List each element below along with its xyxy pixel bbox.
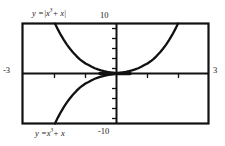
curve-cubic-tail: + x bbox=[53, 128, 65, 138]
curve-abs-tail: + x bbox=[52, 8, 64, 18]
plot-canvas bbox=[0, 0, 225, 146]
graph-figure: 10 -10 -3 3 y =|x3+ x| y =x3+ x bbox=[0, 0, 225, 146]
curve-label-cubic: y =x3+ x bbox=[35, 128, 65, 137]
curve-abs-bar-close: | bbox=[64, 9, 66, 18]
curve-cubic-lhs: y = bbox=[35, 128, 47, 138]
y-axis-min-label: -10 bbox=[98, 127, 109, 136]
y-axis-max-label: 10 bbox=[100, 11, 109, 20]
curve-abs-bar-open: | bbox=[44, 9, 46, 18]
curve-label-absolute: y =|x3+ x| bbox=[32, 8, 66, 17]
x-axis-min-label: -3 bbox=[3, 66, 10, 75]
curve-abs-lhs: y = bbox=[32, 8, 44, 18]
x-axis-max-label: 3 bbox=[213, 66, 217, 75]
